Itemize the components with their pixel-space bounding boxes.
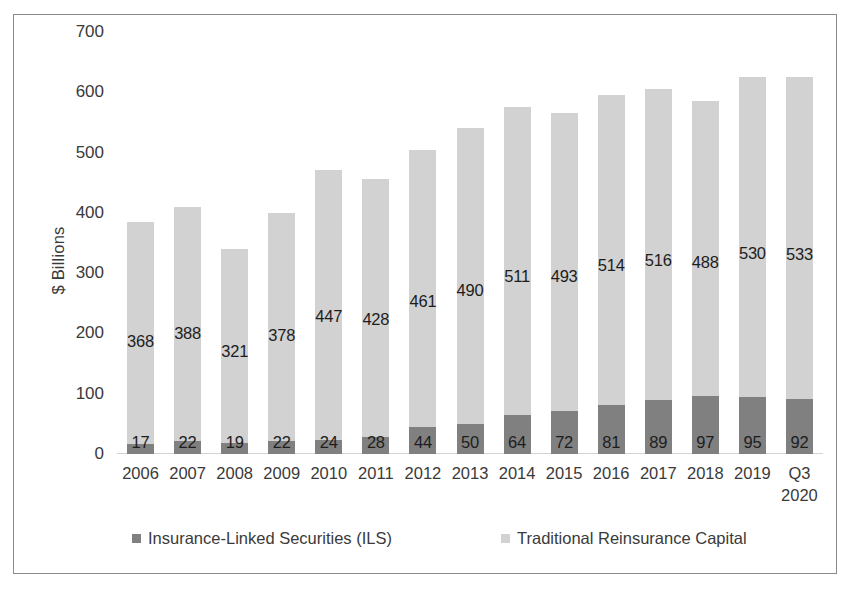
- x-axis-tick-2016: 2016: [588, 462, 635, 484]
- y-axis-tick-100: 100: [34, 384, 104, 404]
- bar-segment-traditional[interactable]: [551, 113, 578, 410]
- data-label-ils: 97: [696, 433, 714, 452]
- data-label-traditional: 368: [127, 332, 154, 351]
- x-axis-tick-2007: 2007: [164, 462, 211, 484]
- data-label-traditional: 488: [692, 253, 719, 272]
- bar-group[interactable]: 64511: [504, 32, 531, 454]
- data-label-ils: 95: [743, 433, 761, 452]
- data-label-ils: 92: [790, 433, 808, 452]
- data-label-ils: 22: [273, 433, 291, 452]
- bar-segment-traditional[interactable]: [457, 128, 484, 423]
- data-label-ils: 28: [367, 433, 385, 452]
- data-label-ils: 72: [555, 433, 573, 452]
- data-label-traditional: 428: [362, 310, 389, 329]
- legend-item[interactable]: Insurance-Linked Securities (ILS): [132, 529, 392, 548]
- data-label-traditional: 516: [645, 251, 672, 270]
- bar-group[interactable]: 72493: [551, 32, 578, 454]
- data-label-traditional: 490: [457, 281, 484, 300]
- x-axis-tick-Q3-2020: Q3 2020: [776, 462, 823, 506]
- data-label-traditional: 511: [504, 267, 530, 286]
- legend-swatch-icon: [501, 534, 510, 543]
- bar-group[interactable]: 97488: [692, 32, 719, 454]
- x-axis-tick-2009: 2009: [258, 462, 305, 484]
- data-label-ils: 17: [132, 433, 150, 452]
- data-label-ils: 89: [649, 433, 667, 452]
- bar-segment-traditional[interactable]: [739, 77, 766, 397]
- x-axis-tick-2013: 2013: [446, 462, 493, 484]
- x-axis-tick-2015: 2015: [541, 462, 588, 484]
- data-label-traditional: 388: [174, 324, 201, 343]
- y-axis-tick-labels: 0100200300400500600700: [34, 15, 104, 573]
- y-axis-tick-200: 200: [34, 323, 104, 343]
- x-axis-tick-2010: 2010: [305, 462, 352, 484]
- bar-group[interactable]: 89516: [645, 32, 672, 454]
- y-axis-tick-700: 700: [34, 22, 104, 42]
- y-axis-tick-300: 300: [34, 263, 104, 283]
- bar-group[interactable]: 50490: [457, 32, 484, 454]
- bar-group[interactable]: 22378: [268, 32, 295, 454]
- data-label-traditional: 514: [598, 256, 625, 275]
- data-label-traditional: 461: [409, 292, 436, 311]
- bar-group[interactable]: 22388: [174, 32, 201, 454]
- x-axis-tick-labels: 2006200720082009201020112012201320142015…: [117, 462, 823, 522]
- legend-swatch-icon: [132, 534, 141, 543]
- bar-group[interactable]: 19321: [221, 32, 248, 454]
- data-label-traditional: 530: [739, 244, 766, 263]
- data-label-ils: 50: [461, 433, 479, 452]
- bar-group[interactable]: 44461: [409, 32, 436, 454]
- bar-segment-traditional[interactable]: [786, 77, 813, 398]
- x-axis-tick-2006: 2006: [117, 462, 164, 484]
- bar-group[interactable]: 81514: [598, 32, 625, 454]
- data-label-traditional: 493: [551, 267, 578, 286]
- data-label-traditional: 378: [268, 326, 295, 345]
- x-axis-tick-2019: 2019: [729, 462, 776, 484]
- chart-legend: Insurance-Linked Securities (ILS)Traditi…: [14, 529, 838, 569]
- y-axis-tick-0: 0: [34, 444, 104, 464]
- x-axis-tick-2008: 2008: [211, 462, 258, 484]
- data-label-ils: 19: [226, 433, 244, 452]
- bar-group[interactable]: 28428: [362, 32, 389, 454]
- x-axis-tick-2012: 2012: [399, 462, 446, 484]
- bar-segment-traditional[interactable]: [409, 150, 436, 428]
- y-axis-tick-500: 500: [34, 143, 104, 163]
- y-axis-tick-400: 400: [34, 203, 104, 223]
- bar-group[interactable]: 17368: [127, 32, 154, 454]
- y-axis-tick-600: 600: [34, 82, 104, 102]
- x-axis-tick-2011: 2011: [352, 462, 399, 484]
- bar-group[interactable]: 24447: [315, 32, 342, 454]
- x-axis-tick-2018: 2018: [682, 462, 729, 484]
- plot-area: 1736822388193212237824447284284446150490…: [117, 32, 823, 454]
- data-label-ils: 64: [508, 433, 526, 452]
- bar-segment-traditional[interactable]: [598, 95, 625, 405]
- data-label-ils: 44: [414, 433, 432, 452]
- data-label-ils: 22: [179, 433, 197, 452]
- bar-segment-traditional[interactable]: [362, 179, 389, 437]
- bar-segment-traditional[interactable]: [692, 101, 719, 395]
- bar-segment-traditional[interactable]: [645, 89, 672, 400]
- data-label-traditional: 533: [786, 245, 813, 264]
- data-label-ils: 81: [602, 433, 620, 452]
- data-label-traditional: 321: [221, 342, 248, 361]
- legend-item[interactable]: Traditional Reinsurance Capital: [501, 529, 747, 548]
- bar-group[interactable]: 92533: [786, 32, 813, 454]
- bar-segment-traditional[interactable]: [504, 107, 531, 415]
- data-label-traditional: 447: [315, 307, 342, 326]
- chart-frame: $ Billions 0100200300400500600700 173682…: [13, 14, 837, 574]
- bar-segment-traditional[interactable]: [315, 170, 342, 439]
- data-label-ils: 24: [320, 433, 338, 452]
- legend-label: Insurance-Linked Securities (ILS): [148, 529, 392, 548]
- legend-label: Traditional Reinsurance Capital: [517, 529, 747, 548]
- x-axis-tick-2014: 2014: [494, 462, 541, 484]
- bar-group[interactable]: 95530: [739, 32, 766, 454]
- x-axis-tick-2017: 2017: [635, 462, 682, 484]
